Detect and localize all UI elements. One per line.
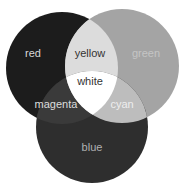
label-red: red — [25, 47, 41, 59]
label-cyan: cyan — [110, 98, 133, 110]
label-white: white — [76, 75, 103, 87]
label-blue: blue — [82, 141, 103, 153]
venn-diagram: red green blue yellow magenta cyan white — [0, 0, 183, 190]
label-magenta: magenta — [35, 98, 79, 110]
label-green: green — [132, 47, 160, 59]
label-yellow: yellow — [75, 47, 106, 59]
